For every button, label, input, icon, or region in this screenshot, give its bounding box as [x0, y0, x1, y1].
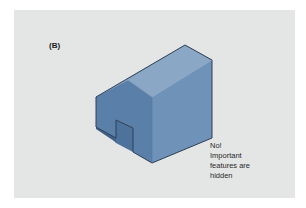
caption-line: No! [210, 141, 250, 151]
caption-text: No! Important features are hidden [210, 141, 250, 181]
caption-line: Important [210, 151, 250, 161]
caption-line: features are [210, 161, 250, 171]
isometric-block-drawing [0, 0, 306, 208]
caption-line: hidden [210, 171, 250, 181]
